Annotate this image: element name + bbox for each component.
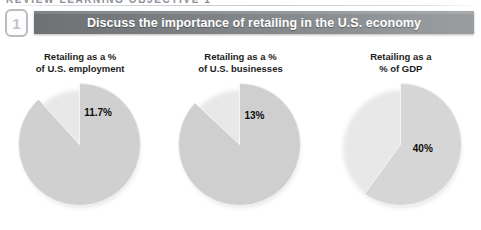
pie-chart-row: Retailing as a % of U.S. employment 11.7… <box>0 44 481 230</box>
objective-banner: Discuss the importance of retailing in t… <box>34 11 474 34</box>
pie-slice-label: 13% <box>244 110 264 121</box>
chart-cell-employment: Retailing as a % of U.S. employment 11.7… <box>0 44 160 230</box>
header-divider <box>0 5 481 6</box>
chart-cell-businesses: Retailing as a % of U.S. businesses 13% <box>160 44 320 230</box>
pie-slice-label: 11.7% <box>84 107 112 118</box>
objective-number: 1 <box>7 11 26 35</box>
chart-caption: Retailing as a % of U.S. businesses <box>198 51 282 74</box>
pie-chart-gdp: 40% <box>339 83 463 207</box>
chart-caption: Retailing as a % of GDP <box>370 51 431 74</box>
pie-body <box>178 83 301 206</box>
chart-caption: Retailing as a % of U.S. employment <box>36 51 125 74</box>
pie-slice-label: 40% <box>413 143 433 154</box>
running-header: REVIEW LEARNING OBJECTIVE 1 <box>6 0 246 4</box>
objective-number-badge: 1 <box>5 9 28 37</box>
pie-chart-businesses: 13% <box>178 83 302 207</box>
chart-cell-gdp: Retailing as a % of GDP 40% <box>321 44 481 230</box>
pie-body <box>18 83 141 206</box>
slide-root: REVIEW LEARNING OBJECTIVE 1 1 Discuss th… <box>0 0 481 230</box>
pie-body <box>339 83 462 206</box>
running-header-text: REVIEW LEARNING OBJECTIVE 1 <box>6 0 246 4</box>
pie-chart-employment: 11.7% <box>18 83 142 207</box>
objective-banner-title: Discuss the importance of retailing in t… <box>87 16 421 30</box>
